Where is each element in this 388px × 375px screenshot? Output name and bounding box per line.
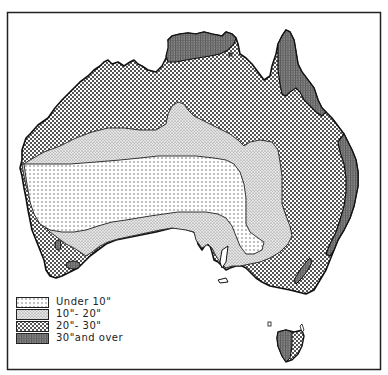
legend-label: 20"- 30"	[56, 320, 101, 332]
legend: Under 10" 10"- 20" 20"- 30" 30"and over	[16, 296, 123, 344]
10-20-swatch-icon	[16, 309, 49, 320]
legend-label: 30"and over	[56, 332, 123, 344]
zone-30-plus-sw-1	[55, 240, 61, 250]
legend-item-30-plus: 30"and over	[16, 332, 123, 344]
island-flinders	[268, 322, 271, 326]
zone-30-plus-sw-2	[66, 261, 80, 269]
legend-item-10-20: 10"- 20"	[16, 308, 123, 320]
legend-item-under-10: Under 10"	[16, 296, 123, 308]
20-30-swatch-icon	[16, 321, 49, 332]
island-melville	[229, 53, 232, 56]
under-10-swatch-icon	[16, 297, 49, 308]
legend-label: Under 10"	[56, 296, 111, 308]
30-plus-swatch-icon	[16, 333, 49, 344]
island-kangaroo	[218, 278, 228, 283]
legend-label: 10"- 20"	[56, 308, 101, 320]
tasmania-west-30-plus	[277, 330, 292, 362]
legend-item-20-30: 20"- 30"	[16, 320, 123, 332]
